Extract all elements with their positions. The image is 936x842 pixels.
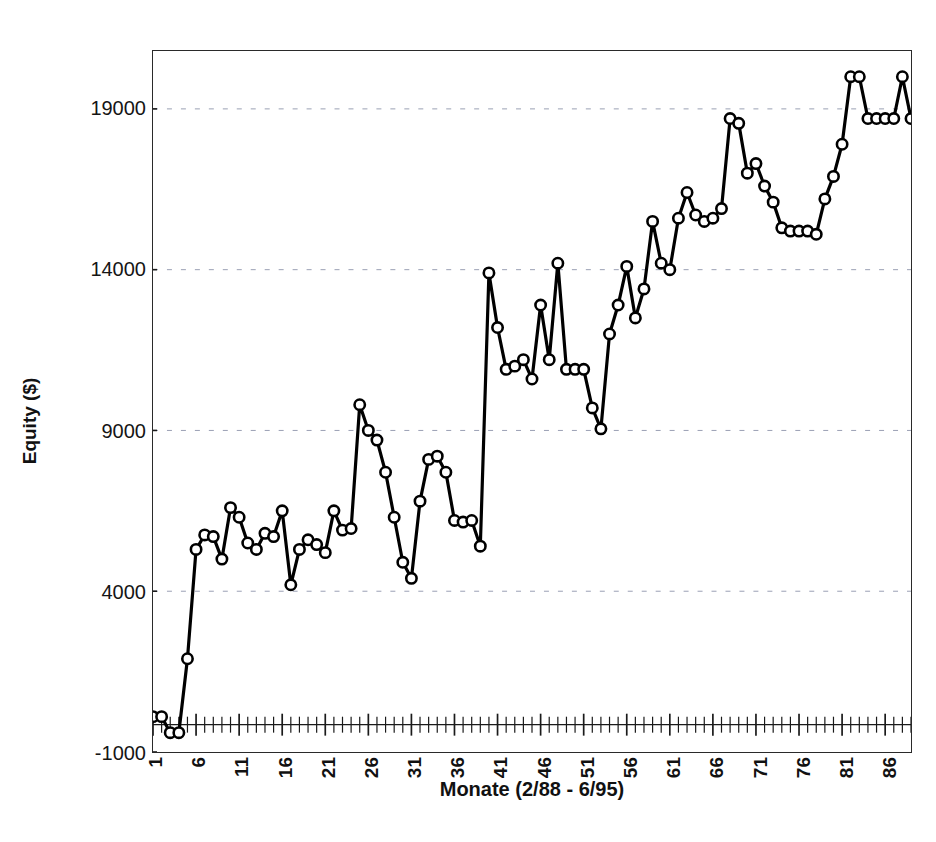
data-point-marker (346, 523, 356, 533)
data-point-marker (355, 400, 365, 410)
y-tick-label: 14000 (54, 258, 146, 281)
data-point-marker (587, 403, 597, 413)
data-point-marker (484, 268, 494, 278)
data-point-marker (897, 72, 907, 82)
y-axis-title-text: Equity ($) (19, 378, 41, 465)
data-point-marker (854, 72, 864, 82)
x-tick-label: 16 (275, 757, 297, 778)
data-point-marker (553, 258, 563, 268)
plot-area (152, 50, 912, 753)
data-point-marker (311, 539, 321, 549)
y-tick-label: 9000 (54, 419, 146, 442)
data-point-marker (415, 496, 425, 506)
equity-polyline (153, 77, 911, 733)
y-tick-label: 4000 (54, 580, 146, 603)
x-tick-label: 41 (490, 757, 512, 778)
data-point-marker (535, 300, 545, 310)
data-point-marker (811, 229, 821, 239)
data-point-marker (604, 329, 614, 339)
x-tick-label: 31 (404, 757, 426, 778)
x-tick-label: 26 (361, 757, 383, 778)
data-point-marker (174, 728, 184, 738)
plot-svg (153, 51, 911, 752)
data-point-marker (665, 264, 675, 274)
data-point-marker (329, 506, 339, 516)
data-point-marker (389, 512, 399, 522)
data-point-marker (217, 554, 227, 564)
data-point-marker (751, 158, 761, 168)
data-point-marker (363, 425, 373, 435)
x-tick-label: 1 (145, 757, 167, 768)
x-tick-label: 61 (663, 757, 685, 778)
data-point-marker (182, 654, 192, 664)
x-tick-label: 51 (577, 757, 599, 778)
x-tick-label: 11 (231, 757, 253, 777)
data-point-marker (639, 284, 649, 294)
x-tick-label: 6 (188, 757, 210, 768)
data-point-marker (406, 573, 416, 583)
data-point-marker (208, 531, 218, 541)
data-point-marker (156, 711, 166, 721)
x-tick-label: 81 (836, 757, 858, 778)
data-point-marker (742, 168, 752, 178)
data-point-marker (432, 451, 442, 461)
x-tick-label: 76 (793, 757, 815, 778)
data-point-marker (467, 515, 477, 525)
y-tick-label: -1000 (54, 742, 146, 765)
data-point-marker (544, 355, 554, 365)
data-point-marker (191, 544, 201, 554)
equity-chart: Equity ($) -1000400090001400019000 16111… (0, 0, 936, 842)
x-tick-label: 46 (534, 757, 556, 778)
data-point-marker (759, 181, 769, 191)
x-tick-label: 66 (706, 757, 728, 778)
x-tick-label: 86 (879, 757, 901, 778)
data-point-marker (596, 424, 606, 434)
x-axis-title: Monate (2/88 - 6/95) (152, 778, 912, 801)
data-point-marker (234, 512, 244, 522)
data-point-marker (682, 187, 692, 197)
data-point-marker (820, 194, 830, 204)
data-point-marker (828, 171, 838, 181)
data-point-marker (622, 261, 632, 271)
data-point-marker (768, 197, 778, 207)
data-point-marker (492, 322, 502, 332)
data-point-marker (578, 364, 588, 374)
data-point-marker (906, 113, 911, 123)
y-axis-tick-labels: -1000400090001400019000 (46, 0, 146, 842)
x-tick-label: 21 (318, 757, 340, 778)
data-point-marker (673, 213, 683, 223)
data-point-marker (708, 213, 718, 223)
data-point-marker (398, 557, 408, 567)
data-point-marker (277, 506, 287, 516)
data-point-marker (518, 355, 528, 365)
data-point-marker (320, 547, 330, 557)
data-point-marker (286, 580, 296, 590)
data-point-marker (613, 300, 623, 310)
data-point-marker (647, 216, 657, 226)
data-point-marker (889, 113, 899, 123)
data-point-marker (380, 467, 390, 477)
y-tick-label: 19000 (54, 97, 146, 120)
data-point-marker (716, 203, 726, 213)
x-tick-label: 56 (620, 757, 642, 778)
data-point-marker (527, 374, 537, 384)
data-point-marker (268, 531, 278, 541)
data-point-marker (294, 544, 304, 554)
data-point-marker (441, 467, 451, 477)
gridlines (153, 109, 911, 752)
data-point-marker (734, 118, 744, 128)
equity-line-series (153, 77, 911, 733)
x-tick-label: 71 (750, 757, 772, 778)
data-point-marker (225, 502, 235, 512)
x-tick-label: 36 (447, 757, 469, 778)
equity-data-markers (153, 72, 911, 738)
data-point-marker (837, 139, 847, 149)
x-tick-marks (153, 714, 911, 736)
data-point-marker (372, 435, 382, 445)
data-point-marker (475, 541, 485, 551)
data-point-marker (251, 544, 261, 554)
data-point-marker (630, 313, 640, 323)
